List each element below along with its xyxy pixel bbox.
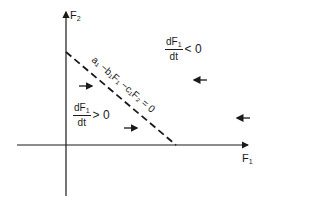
region-lower-label: dF1 dt > 0: [73, 102, 110, 128]
isocline-line: [66, 52, 176, 145]
y-axis-label: F2: [70, 10, 81, 22]
region-upper-label: dF1 dt < 0: [165, 36, 202, 62]
x-axis-label: F1: [242, 153, 253, 165]
